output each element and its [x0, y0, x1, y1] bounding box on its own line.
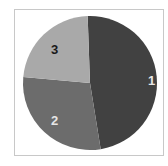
pie-slice-1 — [88, 16, 157, 149]
slice-label-1: 1 — [148, 73, 155, 88]
slice-label-2: 2 — [51, 113, 58, 128]
pie-chart: 1 2 3 — [0, 0, 168, 166]
slice-label-3: 3 — [51, 42, 58, 57]
pie-slice-2 — [23, 77, 101, 150]
